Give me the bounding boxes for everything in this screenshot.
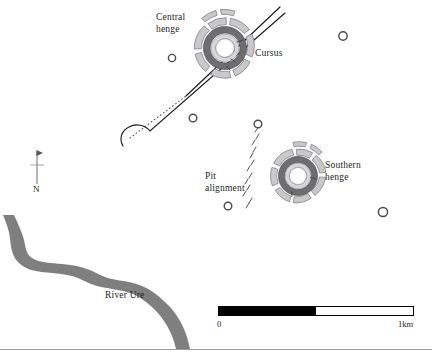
- label-central-henge: Central henge: [156, 12, 185, 35]
- round-barrow-4: [254, 120, 262, 128]
- round-barrow-1: [168, 54, 175, 61]
- scale-bar: [218, 306, 414, 316]
- label-cursus: Cursus: [255, 48, 283, 60]
- round-barrow-2: [339, 32, 347, 40]
- round-barrow-5: [224, 202, 232, 210]
- river-ure: [3, 215, 190, 349]
- label-river-ure: River Ure: [105, 290, 145, 302]
- north-arrow-letter: N: [33, 184, 40, 194]
- scale-bar-end-label: 1km: [398, 319, 413, 329]
- archaeological-site-plan: Central henge Cursus Pit alignment South…: [0, 0, 432, 361]
- scale-bar-filled-segment: [219, 307, 316, 315]
- round-barrow-6: [378, 207, 387, 216]
- north-arrow: [30, 153, 44, 184]
- scale-bar-start-label: 0: [217, 319, 221, 329]
- label-pit-alignment: Pit alignment: [205, 171, 245, 194]
- bottom-divider: [0, 349, 432, 350]
- pit-alignment: [243, 128, 259, 208]
- round-barrow-3: [189, 114, 197, 122]
- central-henge: [184, 2, 263, 86]
- label-southern-henge: Southern henge: [325, 160, 361, 183]
- southern-henge: [265, 137, 331, 209]
